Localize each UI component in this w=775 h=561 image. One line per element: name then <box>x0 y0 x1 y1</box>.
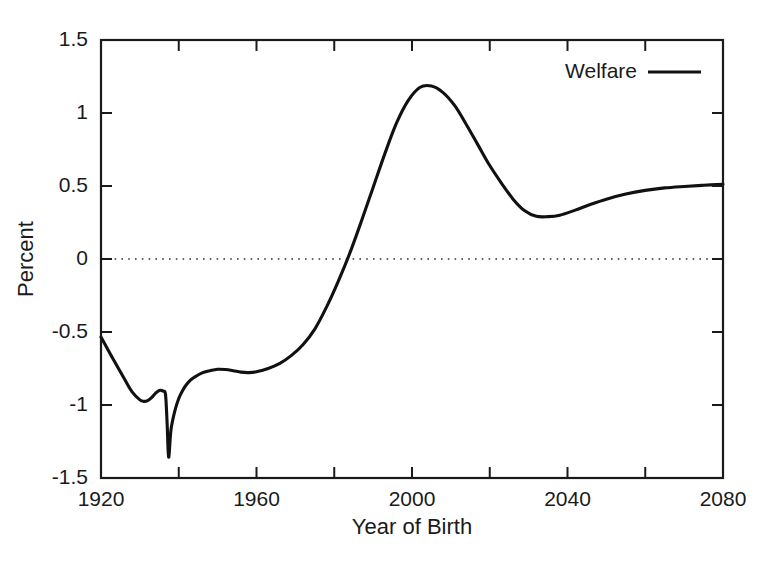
x-tick-label-2000: 2000 <box>389 487 436 510</box>
y-axis-title: Percent <box>13 221 38 297</box>
y-tick-label--0.5: -0.5 <box>52 319 88 342</box>
y-tick-label-1.5: 1.5 <box>59 27 88 50</box>
y-tick-label--1: -1 <box>69 392 88 415</box>
chart-figure: 19201960200020402080 -1.5-1-0.500.511.5 … <box>0 0 775 561</box>
welfare-line-chart: 19201960200020402080 -1.5-1-0.500.511.5 … <box>0 0 775 561</box>
legend-label-welfare: Welfare <box>565 59 637 82</box>
x-tick-label-2040: 2040 <box>544 487 591 510</box>
y-tick-label--1.5: -1.5 <box>52 465 88 488</box>
x-tick-label-1920: 1920 <box>78 487 125 510</box>
x-axis-tick-labels: 19201960200020402080 <box>78 487 747 510</box>
y-tick-label-0.5: 0.5 <box>59 173 88 196</box>
x-axis-title: Year of Birth <box>352 514 472 539</box>
y-tick-label-1: 1 <box>76 100 88 123</box>
plot-area-background <box>101 40 723 478</box>
x-tick-label-2080: 2080 <box>700 487 747 510</box>
x-tick-label-1960: 1960 <box>233 487 280 510</box>
y-axis-tick-labels: -1.5-1-0.500.511.5 <box>52 27 88 488</box>
y-tick-label-0: 0 <box>76 246 88 269</box>
